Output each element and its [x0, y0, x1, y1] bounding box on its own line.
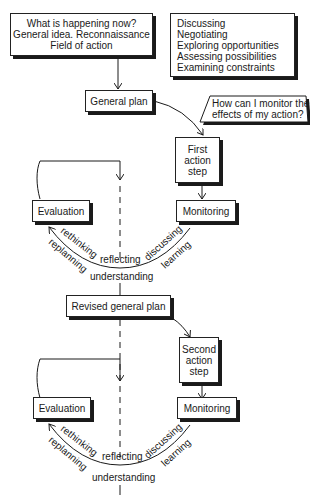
monitoring-box-2: Monitoring	[177, 397, 237, 419]
general-plan-label: General plan	[90, 96, 147, 107]
evaluation-box-2: Evaluation	[33, 397, 91, 419]
action-step-line: action	[186, 355, 213, 366]
context-line: Field of action	[50, 40, 112, 51]
action-step-line: step	[188, 166, 207, 177]
evaluation-label: Evaluation	[39, 403, 86, 414]
activity-item: Examining constraints	[177, 62, 275, 73]
action-step-line: action	[184, 155, 211, 166]
label-reflecting-2: reflecting	[102, 451, 143, 462]
loop-evaluation2-to-center	[37, 359, 120, 398]
activity-item: Discussing	[177, 18, 225, 29]
activity-item: Assessing possibilities	[177, 51, 277, 62]
activity-item: Exploring opportunities	[177, 40, 279, 51]
monitoring-label: Monitoring	[184, 403, 231, 414]
activities-box: Discussing Negotiating Exploring opportu…	[170, 13, 295, 77]
action-step-line: step	[190, 366, 209, 377]
general-plan-box: General plan	[85, 90, 153, 112]
question-line: How can I monitor the	[212, 98, 309, 109]
label-understanding-1: understanding	[90, 271, 153, 282]
context-box: What is happening now? General idea. Rec…	[10, 13, 153, 56]
context-line: General idea. Reconnaissance	[13, 29, 150, 40]
label-understanding-2: understanding	[92, 472, 155, 483]
context-line: What is happening now?	[27, 18, 137, 29]
first-action-step-box: First action step	[175, 137, 220, 183]
monitor-question-box: How can I monitor the effects of my acti…	[196, 93, 306, 125]
action-step-line: First	[188, 144, 207, 155]
evaluation-box-1: Evaluation	[32, 200, 90, 222]
activity-item: Negotiating	[177, 29, 228, 40]
question-line: effects of my action?	[212, 109, 309, 120]
action-step-line: Second	[182, 344, 216, 355]
revised-plan-label: Revised general plan	[72, 301, 166, 312]
revised-plan-box: Revised general plan	[66, 295, 171, 317]
monitoring-box-1: Monitoring	[176, 200, 236, 222]
second-action-step-box: Second action step	[179, 337, 219, 383]
arrow-revised-to-action2	[172, 318, 190, 337]
monitoring-label: Monitoring	[183, 206, 230, 217]
label-reflecting-1: reflecting	[100, 254, 141, 265]
evaluation-label: Evaluation	[38, 206, 85, 217]
loop-evaluation1-to-center	[37, 161, 120, 199]
